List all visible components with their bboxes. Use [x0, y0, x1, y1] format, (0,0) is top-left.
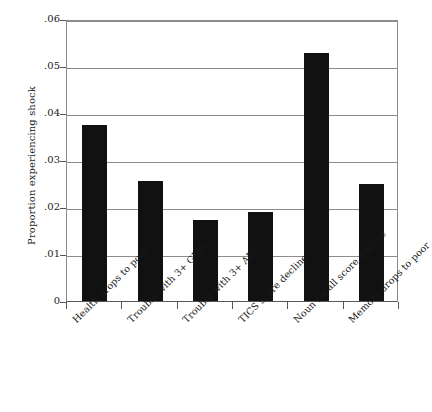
x-tick-mark — [121, 302, 122, 309]
y-tick-label: .02 — [30, 201, 60, 212]
y-tick-label: .06 — [30, 13, 60, 24]
y-tick-mark — [60, 255, 66, 256]
x-tick-mark — [287, 302, 288, 309]
y-tick-mark — [60, 161, 66, 162]
y-axis-title: Proportion experiencing shock — [26, 56, 37, 276]
y-tick-label: .05 — [30, 60, 60, 71]
bar — [304, 53, 329, 301]
y-tick-label: .03 — [30, 154, 60, 165]
y-tick-mark — [60, 20, 66, 21]
y-tick-mark — [60, 114, 66, 115]
y-tick-label: .04 — [30, 107, 60, 118]
x-tick-mark — [177, 302, 178, 309]
x-tick-mark — [398, 302, 399, 309]
x-tick-mark — [343, 302, 344, 309]
x-tick-mark — [66, 302, 67, 309]
y-tick-mark — [60, 67, 66, 68]
bar — [82, 125, 107, 301]
x-tick-mark — [232, 302, 233, 309]
y-tick-label: 0 — [30, 295, 60, 306]
y-tick-label: .01 — [30, 248, 60, 259]
y-tick-mark — [60, 208, 66, 209]
